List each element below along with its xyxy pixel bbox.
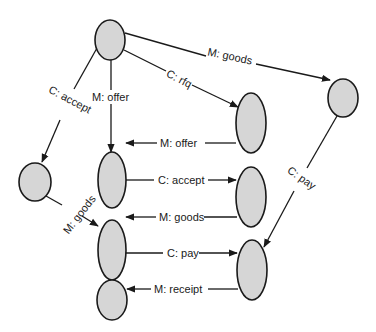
edge-offer-down: M: offer [92, 60, 129, 152]
node-root[interactable] [95, 20, 125, 60]
edge-label-goods-left: M: goods [61, 192, 99, 235]
node-col-top[interactable] [236, 93, 266, 153]
edge-label-accept-left: C: accept [47, 83, 94, 115]
edge-goods-left: M: goods [46, 192, 98, 235]
node-mid-lower[interactable] [98, 220, 126, 280]
edge-label-offer-down: M: offer [92, 91, 129, 103]
node-col-bottom[interactable] [237, 240, 267, 300]
node-mid-bottom[interactable] [97, 280, 127, 320]
edge-label-pay: C: pay [167, 247, 199, 259]
edge-goods-back: M: goods [126, 211, 237, 223]
edge-label-offer-back: M: offer [160, 137, 197, 149]
node-right-top[interactable] [328, 79, 358, 117]
node-col-mid[interactable] [236, 167, 266, 227]
edge-goods-top: M: goods [125, 33, 330, 80]
edge-receipt: M: receipt [127, 283, 238, 295]
edge-label-goods-top: M: goods [207, 45, 254, 66]
edge-label-accept: C: accept [158, 174, 204, 186]
edge-pay-right: C: pay [264, 116, 337, 247]
edge-label-rfq: C: rfq [165, 67, 194, 90]
edge-accept-left: C: accept [42, 48, 97, 162]
node-left-small[interactable] [19, 163, 51, 201]
node-mid-upper[interactable] [98, 152, 126, 208]
edge-accept: C: accept [124, 174, 236, 186]
edge-label-receipt: M: receipt [154, 283, 202, 295]
edge-offer-back: M: offer [126, 137, 236, 149]
edge-label-goods-back: M: goods [159, 211, 205, 223]
edge-label-pay-right: C: pay [285, 164, 318, 192]
edge-pay: C: pay [124, 247, 237, 259]
diagram-canvas: M: goods C: rfq M: offer C: accept M: of… [0, 0, 376, 332]
